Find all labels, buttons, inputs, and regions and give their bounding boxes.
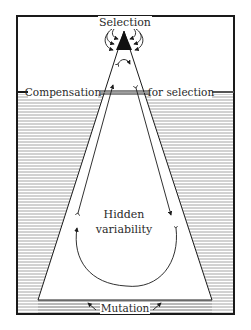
selection-peak-icon xyxy=(116,31,132,50)
population-genetics-diagram: Selection Compensation for selection Hid… xyxy=(0,0,251,330)
label-selection: Selection xyxy=(99,16,151,29)
label-mutation: Mutation xyxy=(101,302,150,314)
label-compensation: Compensation xyxy=(25,86,102,98)
label-variability: variability xyxy=(95,223,153,236)
label-hidden: Hidden xyxy=(104,208,145,221)
label-for-selection: for selection xyxy=(148,86,215,98)
